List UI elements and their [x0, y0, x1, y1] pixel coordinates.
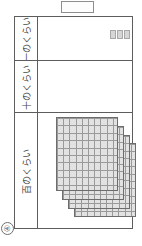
place-value-cell-hundreds[interactable]: [38, 113, 132, 228]
unit-cube-group: [110, 30, 130, 39]
unit-cube: [110, 30, 116, 39]
place-value-label-hundreds: 百のくらい: [15, 113, 38, 228]
place-value-label-ones-text: 一のくらい: [20, 17, 33, 60]
unit-cube: [117, 30, 123, 39]
problem-number: ④: [1, 222, 14, 235]
place-value-cell-ones[interactable]: [38, 17, 132, 60]
place-value-table: 一のくらい 十のくらい 百のくらい: [14, 16, 133, 229]
place-value-label-tens-text: 十のくらい: [20, 64, 33, 109]
place-value-row-tens: 十のくらい: [15, 61, 132, 113]
answer-box[interactable]: [61, 1, 94, 13]
place-value-label-ones: 一のくらい: [15, 17, 38, 60]
place-value-label-tens: 十のくらい: [15, 61, 38, 112]
place-value-row-hundreds: 百のくらい: [15, 113, 132, 228]
unit-cube: [124, 30, 130, 39]
hundred-flat-group: [56, 117, 138, 223]
place-value-cell-tens[interactable]: [38, 61, 132, 112]
place-value-row-ones: 一のくらい: [15, 17, 132, 61]
hundred-flat: [56, 117, 118, 191]
place-value-label-hundreds-text: 百のくらい: [20, 148, 33, 193]
